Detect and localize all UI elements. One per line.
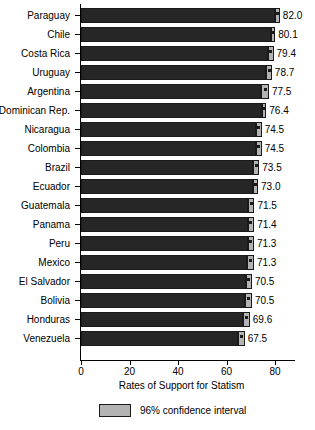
bar-row: Venezuela67.5 (0, 329, 315, 348)
bar-row: Chile80.1 (0, 25, 315, 44)
bar-row: Dominican Rep.76.4 (0, 101, 315, 120)
confidence-interval-box (238, 331, 245, 346)
category-label: Paraguay (27, 6, 70, 25)
y-axis-tick (75, 243, 80, 244)
value-label: 69.6 (253, 310, 272, 329)
bar-row: Peru71.3 (0, 234, 315, 253)
bar-row: Guatemala71.5 (0, 196, 315, 215)
x-axis-tick (227, 360, 228, 365)
point-estimate-marker (249, 221, 252, 224)
y-axis-tick (75, 129, 80, 130)
confidence-interval-box (247, 255, 254, 270)
chart-legend: 96% confidence interval (99, 404, 246, 417)
y-axis-tick (75, 167, 80, 168)
bar (81, 103, 262, 118)
bar (81, 198, 248, 213)
bar-row: Paraguay82.0 (0, 6, 315, 25)
confidence-interval-box (261, 84, 269, 99)
confidence-interval-box (266, 65, 272, 80)
value-label: 73.0 (261, 177, 280, 196)
value-label: 67.5 (248, 329, 267, 348)
confidence-interval-box (248, 217, 254, 232)
confidence-interval-box (262, 103, 266, 118)
point-estimate-marker (254, 183, 257, 186)
category-label: Dominican Rep. (0, 101, 70, 120)
category-label: Uruguay (32, 63, 70, 82)
y-axis-tick (75, 148, 80, 149)
bar (81, 46, 268, 61)
x-axis-tick (81, 360, 82, 365)
point-estimate-marker (264, 88, 267, 91)
y-axis-tick (75, 224, 80, 225)
value-label: 76.4 (269, 101, 288, 120)
x-axis-tick-label: 20 (115, 366, 145, 377)
point-estimate-marker (240, 335, 243, 338)
confidence-interval-box (243, 312, 250, 327)
value-label: 71.4 (257, 215, 276, 234)
bar-row: Costa Rica79.4 (0, 44, 315, 63)
bar-row: Argentina77.5 (0, 82, 315, 101)
value-label: 80.1 (278, 25, 297, 44)
confidence-interval-box (271, 27, 275, 42)
point-estimate-marker (249, 240, 252, 243)
point-estimate-marker (250, 202, 253, 205)
bar (81, 274, 246, 289)
category-label: Mexico (38, 253, 70, 272)
confidence-interval-box (275, 8, 280, 23)
point-estimate-marker (272, 31, 275, 34)
bar-row: Mexico71.3 (0, 253, 315, 272)
x-axis-tick-label: 60 (212, 366, 242, 377)
y-axis-tick (75, 53, 80, 54)
y-axis-tick (75, 186, 80, 187)
category-label: Guatemala (21, 196, 70, 215)
bar (81, 312, 243, 327)
x-axis-title: Rates of Support for Statism (0, 380, 315, 391)
bar-row: El Salvador70.5 (0, 272, 315, 291)
value-label: 79.4 (277, 44, 296, 63)
confidence-interval-box (253, 179, 258, 194)
point-estimate-marker (249, 259, 252, 262)
value-label: 70.5 (255, 272, 274, 291)
category-label: Argentina (27, 82, 70, 101)
point-estimate-marker (276, 12, 279, 15)
confidence-interval-box (248, 236, 254, 251)
value-label: 82.0 (283, 6, 302, 25)
value-label: 77.5 (272, 82, 291, 101)
point-estimate-marker (263, 107, 266, 110)
bar-row: Uruguay78.7 (0, 63, 315, 82)
point-estimate-marker (247, 297, 250, 300)
point-estimate-marker (255, 164, 258, 167)
category-label: Ecuador (33, 177, 70, 196)
bar (81, 331, 238, 346)
category-label: Peru (49, 234, 70, 253)
bar-chart: Paraguay82.0Chile80.1Costa Rica79.4Urugu… (0, 0, 315, 430)
category-label: Panama (33, 215, 70, 234)
point-estimate-marker (268, 69, 271, 72)
x-axis-tick (275, 360, 276, 365)
confidence-interval-box (256, 141, 261, 156)
confidence-interval-box (253, 160, 259, 175)
y-axis-tick (75, 281, 80, 282)
point-estimate-marker (257, 145, 260, 148)
point-estimate-marker (247, 278, 250, 281)
bar (81, 84, 261, 99)
value-label: 73.5 (262, 158, 281, 177)
bar-row: Ecuador73.0 (0, 177, 315, 196)
point-estimate-marker (269, 50, 272, 53)
y-axis-tick (75, 72, 80, 73)
category-label: El Salvador (19, 272, 70, 291)
y-axis-tick (75, 338, 80, 339)
category-label: Venezuela (23, 329, 70, 348)
bar-row: Bolivia70.5 (0, 291, 315, 310)
bar-row: Panama71.4 (0, 215, 315, 234)
bar-row: Honduras69.6 (0, 310, 315, 329)
bar (81, 8, 275, 23)
bar (81, 236, 248, 251)
value-label: 71.3 (257, 234, 276, 253)
bar-row: Colombia74.5 (0, 139, 315, 158)
category-label: Brazil (45, 158, 70, 177)
bar (81, 160, 253, 175)
bar (81, 65, 266, 80)
y-axis-tick (75, 15, 80, 16)
x-axis-tick (178, 360, 179, 365)
